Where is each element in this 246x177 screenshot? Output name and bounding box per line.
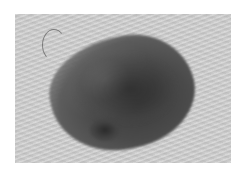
- skin-lesion-photo: [15, 14, 231, 163]
- lesion-core: [75, 54, 175, 124]
- hair-strand: [42, 29, 66, 61]
- hair-strand: [220, 114, 231, 146]
- lesion-lower-lobe: [90, 119, 120, 141]
